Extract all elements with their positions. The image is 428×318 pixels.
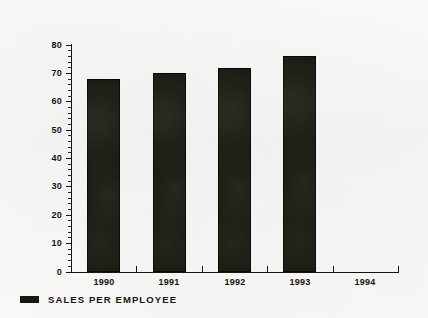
x-axis-tick-label-1990: 1990 bbox=[71, 277, 137, 287]
y-axis-major-tick bbox=[66, 158, 72, 159]
y-axis-minor-tick bbox=[68, 62, 72, 63]
y-axis-minor-tick bbox=[68, 226, 72, 227]
y-axis-minor-tick bbox=[68, 67, 72, 68]
paper-texture-overlay bbox=[0, 0, 428, 318]
y-axis-tick-label: 70 bbox=[22, 69, 62, 78]
y-axis-major-tick bbox=[66, 101, 72, 102]
legend-swatch-sales-per-employee bbox=[20, 296, 39, 303]
legend-label-sales-per-employee: SALES PER EMPLOYEE bbox=[48, 294, 177, 305]
y-axis-minor-tick bbox=[68, 175, 72, 176]
y-axis-minor-tick bbox=[68, 84, 72, 85]
y-axis-minor-tick bbox=[68, 56, 72, 57]
y-axis-minor-tick bbox=[68, 198, 72, 199]
y-axis-minor-tick bbox=[68, 96, 72, 97]
x-axis-boundary-tick bbox=[202, 266, 203, 273]
y-axis-minor-tick bbox=[68, 90, 72, 91]
y-axis-minor-tick bbox=[68, 135, 72, 136]
x-axis-boundary-tick bbox=[267, 266, 268, 273]
y-axis-minor-tick bbox=[68, 113, 72, 114]
y-axis-minor-tick bbox=[68, 118, 72, 119]
bar-1992 bbox=[218, 68, 251, 272]
x-axis-boundary-tick bbox=[333, 266, 334, 273]
y-axis-minor-tick bbox=[68, 254, 72, 255]
y-axis-major-tick bbox=[66, 186, 72, 187]
y-axis-minor-tick bbox=[68, 220, 72, 221]
y-axis-major-tick bbox=[66, 45, 72, 46]
y-axis-major-tick bbox=[66, 73, 72, 74]
y-axis-minor-tick bbox=[68, 50, 72, 51]
y-axis-minor-tick bbox=[68, 141, 72, 142]
y-axis-tick-label: 60 bbox=[22, 97, 62, 106]
y-axis-minor-tick bbox=[68, 266, 72, 267]
y-axis-minor-tick bbox=[68, 79, 72, 80]
y-axis-minor-tick bbox=[68, 192, 72, 193]
y-axis-major-tick bbox=[66, 215, 72, 216]
y-axis-minor-tick bbox=[68, 249, 72, 250]
y-axis-minor-tick bbox=[68, 181, 72, 182]
y-axis-tick-label: 20 bbox=[22, 211, 62, 220]
y-axis-tick-label: 0 bbox=[22, 268, 62, 277]
chart-legend: SALES PER EMPLOYEE bbox=[20, 294, 177, 305]
y-axis-tick-label: 10 bbox=[22, 239, 62, 248]
y-axis-major-tick bbox=[66, 243, 72, 244]
y-axis-minor-tick bbox=[68, 152, 72, 153]
x-axis-tick-label-1991: 1991 bbox=[136, 277, 202, 287]
y-axis-tick-label: 80 bbox=[22, 41, 62, 50]
x-axis-tick-label-1994: 1994 bbox=[332, 277, 398, 287]
x-axis-tick-label-1993: 1993 bbox=[267, 277, 333, 287]
y-axis-minor-tick bbox=[68, 147, 72, 148]
bar-1993 bbox=[283, 56, 316, 272]
y-axis-minor-tick bbox=[68, 260, 72, 261]
x-axis-end-tick bbox=[398, 266, 399, 273]
y-axis-major-tick bbox=[66, 130, 72, 131]
y-axis-minor-tick bbox=[68, 203, 72, 204]
y-axis-tick-label: 40 bbox=[22, 154, 62, 163]
x-axis-tick-label-1992: 1992 bbox=[202, 277, 268, 287]
y-axis-minor-tick bbox=[68, 107, 72, 108]
bar-1991 bbox=[153, 73, 186, 272]
bar-1990 bbox=[87, 79, 120, 272]
y-axis-tick-label: 30 bbox=[22, 182, 62, 191]
y-axis-tick-label: 50 bbox=[22, 126, 62, 135]
bar-chart-figure: 01020304050607080 19901991199219931994 S… bbox=[0, 0, 428, 318]
x-axis-boundary-tick bbox=[136, 266, 137, 273]
y-axis-minor-tick bbox=[68, 237, 72, 238]
y-axis-minor-tick bbox=[68, 124, 72, 125]
y-axis-minor-tick bbox=[68, 232, 72, 233]
y-axis-minor-tick bbox=[68, 164, 72, 165]
y-axis-minor-tick bbox=[68, 209, 72, 210]
y-axis-major-tick bbox=[66, 272, 72, 273]
y-axis-minor-tick bbox=[68, 169, 72, 170]
x-axis-line bbox=[71, 272, 399, 273]
